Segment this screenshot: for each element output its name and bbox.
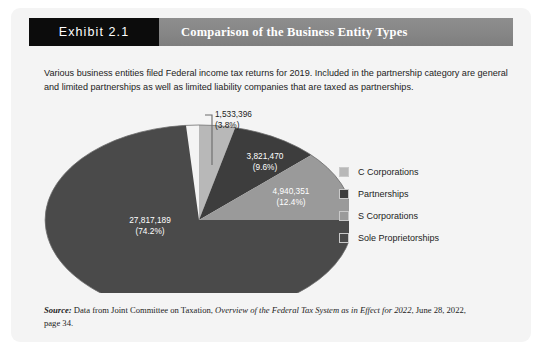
pie-chart: 1,533,396 (3.8%) 3,821,470 (9.6%) 4,940,… xyxy=(29,103,349,293)
sole-value: 27,817,189 xyxy=(129,215,171,225)
exhibit-header: Exhibit 2.1 Comparison of the Business E… xyxy=(29,18,513,46)
partnerships-percent: (12.4%) xyxy=(276,197,305,207)
source-note: Source: Data from Joint Committee on Tax… xyxy=(44,304,484,329)
legend-swatch-icon-partnerships xyxy=(339,189,349,199)
s-corp-percent: (3.8%) xyxy=(215,120,239,130)
source-label: Source: xyxy=(44,305,72,315)
sole-proprietorships-slice-label: 27,817,189 (74.2%) xyxy=(105,215,195,237)
chart-legend: C Corporations Partnerships S Corporatio… xyxy=(339,161,514,249)
s-corp-callout-label: 1,533,396 (3.8%) xyxy=(215,109,252,131)
legend-swatch-icon-sole-proprietorships xyxy=(339,233,349,243)
c-corp-slice-label: 3,821,470 (9.6%) xyxy=(225,151,305,173)
exhibit-tag: Exhibit 2.1 xyxy=(29,18,159,46)
legend-label-sole-proprietorships: Sole Proprietorships xyxy=(358,233,439,243)
legend-swatch-icon-s-corporations xyxy=(339,211,349,221)
partnerships-value: 4,940,351 xyxy=(273,186,310,196)
exhibit-panel: Exhibit 2.1 Comparison of the Business E… xyxy=(11,8,531,342)
legend-item-partnerships: Partnerships xyxy=(339,183,514,205)
c-corp-percent: (9.6%) xyxy=(253,162,277,172)
legend-label-s-corporations: S Corporations xyxy=(358,211,418,221)
page-title: Comparison of the Business Entity Types xyxy=(159,18,513,46)
legend-item-sole-proprietorships: Sole Proprietorships xyxy=(339,227,514,249)
legend-label-c-corporations: C Corporations xyxy=(358,167,419,177)
s-corp-value: 1,533,396 xyxy=(215,109,252,119)
source-text-part-1: Data from Joint Committee on Taxation, xyxy=(72,305,215,315)
source-publication-title: Overview of the Federal Tax System as in… xyxy=(215,305,411,315)
legend-label-partnerships: Partnerships xyxy=(358,189,409,199)
intro-paragraph: Various business entities filed Federal … xyxy=(44,66,514,94)
chart-area: 1,533,396 (3.8%) 3,821,470 (9.6%) 4,940,… xyxy=(29,103,513,293)
sole-percent: (74.2%) xyxy=(135,226,164,236)
legend-item-c-corporations: C Corporations xyxy=(339,161,514,183)
legend-swatch-icon-c-corporations xyxy=(339,167,349,177)
c-corp-value: 3,821,470 xyxy=(247,151,284,161)
partnerships-slice-label: 4,940,351 (12.4%) xyxy=(251,186,331,208)
legend-item-s-corporations: S Corporations xyxy=(339,205,514,227)
